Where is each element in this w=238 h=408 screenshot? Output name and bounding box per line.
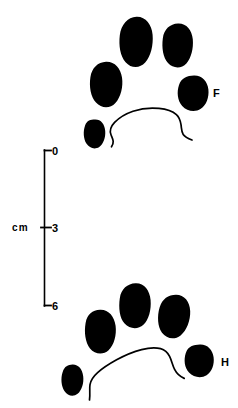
hind-toe-pad-right — [185, 345, 214, 378]
front-print-group — [84, 17, 209, 149]
front-heel-arc — [110, 108, 192, 147]
scale-tick-0-label: 0 — [52, 145, 58, 157]
hind-heel-arc — [90, 348, 185, 400]
scale-unit-label: cm — [12, 222, 29, 233]
hind-print-group — [61, 283, 213, 400]
front-toe-pad-right — [178, 76, 209, 111]
front-toe-pad-lower-left — [84, 120, 106, 149]
scale-tick-3-label: 3 — [52, 222, 58, 234]
figure-canvas: 0 3 6 cm — [0, 0, 238, 408]
front-print-label: F — [213, 87, 220, 99]
front-toe-pad-left — [90, 62, 122, 108]
front-toe-pad-top-right — [162, 24, 193, 68]
scale-bar: 0 3 6 cm — [12, 145, 58, 312]
hind-toe-pad-lower-left — [61, 365, 83, 396]
hind-toe-pad-left — [85, 310, 116, 354]
hind-toe-pad-top-center — [119, 283, 150, 328]
front-toe-pad-top-center — [119, 17, 152, 67]
scale-tick-6-label: 6 — [52, 300, 58, 312]
track-figure-svg: 0 3 6 cm — [0, 0, 238, 408]
hind-toe-pad-top-right — [158, 295, 190, 338]
hind-print-label: H — [221, 356, 229, 368]
